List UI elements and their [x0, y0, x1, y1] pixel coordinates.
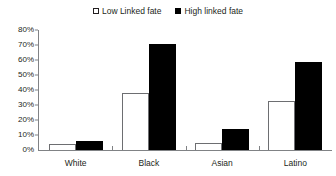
x-tick-label: Latino [284, 159, 307, 168]
x-tick-label: Asian [211, 159, 232, 168]
chart-legend: Low Linked fate High linked fate [0, 7, 336, 16]
legend-item-high-linked-fate: High linked fate [175, 7, 243, 16]
y-tick-mark [35, 60, 38, 61]
y-tick-mark [35, 135, 38, 136]
plot-area: 0%10%20%30%40%50%60%70%80% WhiteBlackAsi… [0, 30, 336, 176]
y-axis: 0%10%20%30%40%50%60%70%80% [4, 30, 34, 150]
bar [149, 44, 176, 151]
bar-group [39, 30, 112, 150]
legend-label-low-linked-fate: Low Linked fate [102, 7, 162, 16]
bar [49, 144, 76, 150]
y-tick-label: 70% [18, 41, 34, 49]
y-tick-label: 30% [18, 101, 34, 109]
y-tick-label: 60% [18, 56, 34, 64]
y-tick-label: 50% [18, 71, 34, 79]
x-axis: WhiteBlackAsianLatino [39, 153, 332, 173]
bar [295, 62, 322, 151]
y-tick-mark [35, 120, 38, 121]
y-tick-mark [35, 75, 38, 76]
bar [122, 93, 149, 150]
filled-square-swatch-icon [175, 8, 181, 14]
bar-group [186, 30, 259, 150]
y-tick-label: 20% [18, 116, 34, 124]
x-tick-mark [259, 146, 260, 150]
bar [76, 141, 103, 150]
x-tick-mark [186, 146, 187, 150]
x-axis-line [38, 150, 332, 151]
bar [195, 143, 222, 151]
y-tick-label: 80% [18, 26, 34, 34]
bar [222, 129, 249, 150]
bar-chart: Low Linked fate High linked fate 0%10%20… [0, 0, 336, 176]
y-tick-label: 10% [18, 131, 34, 139]
y-tick-mark [35, 105, 38, 106]
y-tick-mark [35, 45, 38, 46]
bars-container [39, 30, 332, 150]
x-tick-label: White [65, 159, 87, 168]
x-tick-mark [112, 146, 113, 150]
bar [268, 101, 295, 151]
y-tick-mark [35, 90, 38, 91]
x-tick-label: Black [138, 159, 159, 168]
y-tick-label: 0% [22, 146, 34, 154]
bar-group [259, 30, 332, 150]
y-tick-mark [35, 30, 38, 31]
open-square-swatch-icon [93, 8, 99, 14]
legend-label-high-linked-fate: High linked fate [184, 7, 243, 16]
legend-item-low-linked-fate: Low Linked fate [93, 7, 162, 16]
y-tick-label: 40% [18, 86, 34, 94]
bar-group [112, 30, 185, 150]
